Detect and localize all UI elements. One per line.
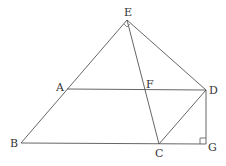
point-label-a: A (55, 81, 65, 94)
segment-bg (21, 143, 206, 144)
point-label-g: G (208, 141, 217, 154)
point-label-b: B (10, 137, 18, 150)
segment-ec (127, 20, 159, 144)
segments (21, 20, 206, 144)
segment-ad (67, 89, 206, 90)
point-label-c: C (155, 147, 163, 160)
segment-eb (21, 20, 127, 143)
point-label-f: F (146, 78, 154, 91)
point-label-d: D (209, 84, 218, 97)
right-angle-mark-g (200, 138, 206, 144)
segment-ed (127, 20, 206, 90)
geometry-figure: E A F D B C G (0, 0, 226, 166)
point-label-e: E (124, 6, 132, 19)
segment-cd (159, 90, 206, 144)
